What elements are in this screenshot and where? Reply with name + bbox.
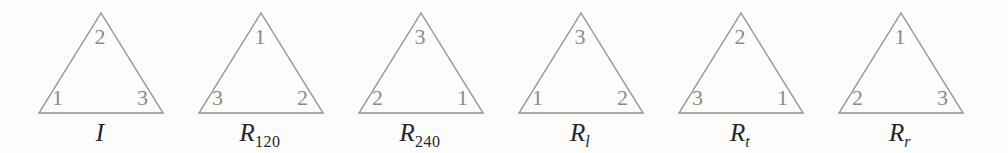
figure-identity: 2 1 3 I bbox=[37, 10, 163, 153]
vertex-label-top: 1 bbox=[197, 26, 323, 48]
triangle-reflection-l: 3 1 2 bbox=[517, 10, 643, 116]
caption-symbol: R bbox=[889, 119, 904, 146]
figure-reflection-r: 1 2 3 Rr bbox=[837, 10, 963, 153]
caption-subscript: t bbox=[745, 133, 750, 150]
triangle-reflection-t: 2 3 1 bbox=[677, 10, 803, 116]
caption-subscript: 240 bbox=[415, 133, 441, 150]
figure-rotation-120: 1 3 2 R120 bbox=[197, 10, 323, 153]
vertex-label-top: 2 bbox=[677, 26, 803, 48]
vertex-label-right: 3 bbox=[137, 87, 148, 109]
caption-symbol: R bbox=[570, 119, 585, 146]
vertex-label-left: 1 bbox=[532, 87, 543, 109]
vertex-label-right: 2 bbox=[617, 87, 628, 109]
caption-symbol: R bbox=[240, 119, 255, 146]
vertex-label-top: 1 bbox=[837, 26, 963, 48]
vertex-label-right: 2 bbox=[297, 87, 308, 109]
triangle-identity: 2 1 3 bbox=[37, 10, 163, 116]
figure-caption: I bbox=[96, 119, 104, 153]
vertex-label-top: 3 bbox=[517, 26, 643, 48]
vertex-label-left: 3 bbox=[212, 87, 223, 109]
caption-symbol: R bbox=[400, 119, 415, 146]
vertex-label-right: 1 bbox=[777, 87, 788, 109]
figure-caption: Rr bbox=[889, 119, 911, 153]
vertex-label-left: 1 bbox=[52, 87, 63, 109]
vertex-label-top: 2 bbox=[37, 26, 163, 48]
vertex-label-left: 2 bbox=[372, 87, 383, 109]
triangle-reflection-r: 1 2 3 bbox=[837, 10, 963, 116]
figure-rotation-240: 3 2 1 R240 bbox=[357, 10, 483, 153]
triangle-rotation-240: 3 2 1 bbox=[357, 10, 483, 116]
figure-caption: R120 bbox=[240, 119, 281, 153]
triangle-symmetries-figure: 2 1 3 I 1 3 2 R120 3 2 1 R240 bbox=[0, 0, 1008, 153]
figure-caption: Rt bbox=[730, 119, 750, 153]
vertex-label-left: 2 bbox=[852, 87, 863, 109]
caption-symbol: R bbox=[730, 119, 745, 146]
caption-symbol: I bbox=[96, 119, 104, 146]
figure-reflection-l: 3 1 2 Rl bbox=[517, 10, 643, 153]
figure-reflection-t: 2 3 1 Rt bbox=[677, 10, 803, 153]
figure-caption: R240 bbox=[400, 119, 441, 153]
figure-caption: Rl bbox=[570, 119, 590, 153]
vertex-label-top: 3 bbox=[357, 26, 483, 48]
caption-subscript: l bbox=[585, 133, 590, 150]
vertex-label-left: 3 bbox=[692, 87, 703, 109]
vertex-label-right: 3 bbox=[937, 87, 948, 109]
caption-subscript: 120 bbox=[255, 133, 281, 150]
triangle-rotation-120: 1 3 2 bbox=[197, 10, 323, 116]
vertex-label-right: 1 bbox=[457, 87, 468, 109]
caption-subscript: r bbox=[904, 133, 911, 150]
